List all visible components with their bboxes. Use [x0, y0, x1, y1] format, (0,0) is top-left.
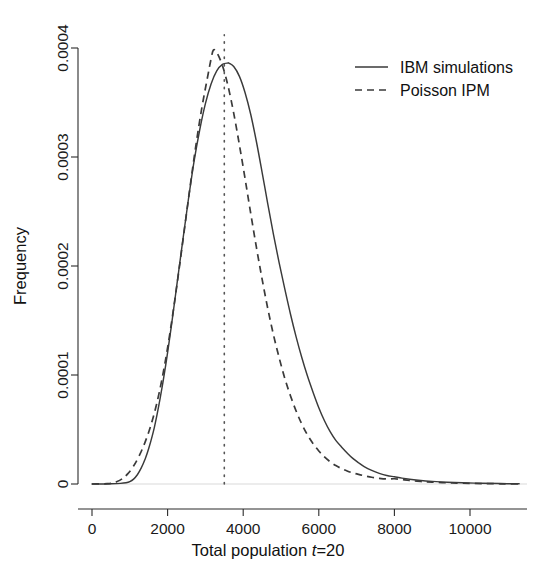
y-axis-title: Frequency	[11, 226, 29, 305]
legend-label-ibm-simulations: IBM simulations	[400, 59, 513, 76]
y-tick-label: 0.0002	[54, 242, 71, 289]
y-tick-label: 0.0001	[54, 351, 71, 398]
x-tick-label: 4000	[226, 520, 261, 537]
x-tick-label: 6000	[302, 520, 337, 537]
legend-label-poisson-ipm: Poisson IPM	[400, 82, 490, 99]
x-axis-title-suffix: =20	[316, 541, 344, 559]
y-tick-label: 0.0004	[54, 24, 71, 72]
x-tick-label: 0	[88, 520, 97, 537]
x-tick-label: 8000	[377, 520, 412, 537]
x-tick-label: 2000	[150, 520, 185, 537]
x-tick-label: 10000	[448, 520, 491, 537]
x-axis-title: Total population t=20	[192, 541, 345, 559]
chart-figure: 00.00010.00020.00030.0004 Frequency 0200…	[0, 0, 541, 577]
y-tick-label: 0.0003	[54, 133, 71, 180]
x-axis-title-prefix: Total population	[192, 541, 312, 559]
y-tick-label: 0	[54, 479, 71, 488]
frequency-distribution-plot: 00.00010.00020.00030.0004 Frequency 0200…	[0, 0, 541, 577]
